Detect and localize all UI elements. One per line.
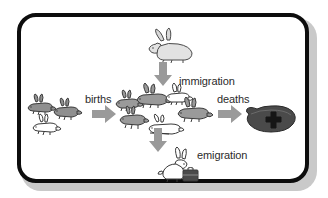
rabbit-icon (149, 28, 192, 63)
rabbit-icon (54, 98, 82, 120)
grave-group (243, 97, 303, 137)
suitcase-icon (183, 168, 198, 182)
rabbit-icon (28, 94, 56, 115)
rabbit-icon (120, 106, 149, 129)
births-arrow-icon (91, 104, 117, 124)
figure-canvas: births (0, 0, 328, 198)
rabbit-icon (33, 114, 61, 135)
source-rabbits-group (25, 91, 87, 137)
immigrating-rabbit-group (145, 27, 201, 65)
emigrating-rabbit-group (157, 147, 215, 185)
rabbit-icon (137, 83, 172, 108)
grave-icon (246, 106, 295, 132)
deaths-arrow-icon (217, 104, 243, 124)
diagram-stage: births (17, 13, 309, 183)
